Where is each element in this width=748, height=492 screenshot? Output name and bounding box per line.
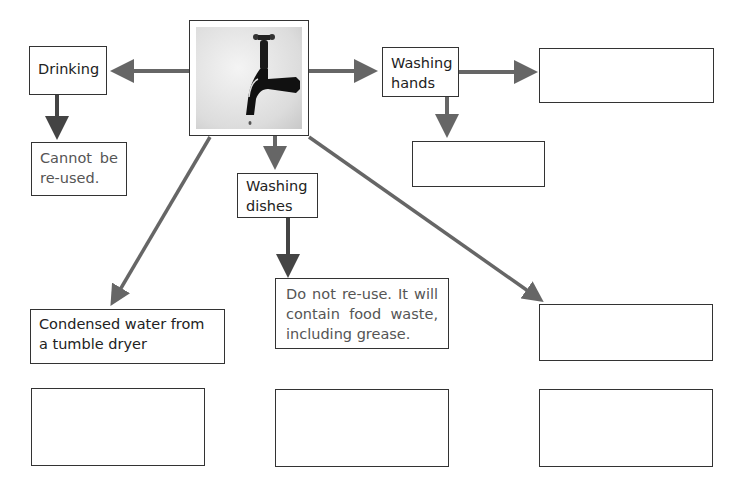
water-tap-icon	[196, 27, 302, 129]
node-answer-right-middle[interactable]	[539, 304, 713, 361]
node-answer-bottom-right[interactable]	[539, 389, 713, 467]
node-condensed-water-label: Condensed water from a tumble dryer	[39, 316, 204, 352]
node-washing-hands: Washing hands	[382, 47, 459, 97]
node-washing-dishes: Washing dishes	[237, 173, 318, 218]
node-drinking: Drinking	[29, 46, 107, 95]
node-washing-dishes-outcome: Do not re-use. It will contain food wast…	[275, 278, 449, 349]
node-washing-dishes-label: Washing dishes	[246, 178, 307, 214]
node-answer-bottom-left[interactable]	[31, 388, 205, 466]
node-drinking-outcome: Cannot be re-used.	[31, 142, 127, 196]
node-washing-hands-answer-below[interactable]	[412, 141, 545, 187]
node-drinking-label: Drinking	[38, 61, 99, 77]
node-answer-bottom-middle[interactable]	[275, 389, 449, 467]
node-washing-dishes-outcome-label: Do not re-use. It will contain food wast…	[286, 286, 438, 342]
node-washing-hands-answer-right[interactable]	[539, 48, 714, 103]
water-tap-image	[189, 20, 309, 136]
node-condensed-water: Condensed water from a tumble dryer	[30, 309, 225, 364]
node-drinking-outcome-label: Cannot be re-used.	[40, 150, 118, 186]
node-washing-hands-label: Washing hands	[391, 55, 452, 91]
